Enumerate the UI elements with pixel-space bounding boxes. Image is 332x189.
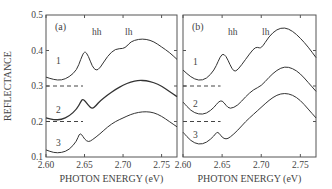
lh-annotation: lh xyxy=(125,27,133,37)
hh-annotation: hh xyxy=(228,27,238,37)
y-tick-label: 0.5 xyxy=(31,10,43,20)
series-line-1 xyxy=(183,28,316,80)
series-label: 3 xyxy=(56,138,61,148)
series-label: 2 xyxy=(193,99,198,109)
series-line-2 xyxy=(183,67,316,114)
y-tick-label: 0.3 xyxy=(31,81,43,91)
series-label: 3 xyxy=(193,130,198,140)
series-label: 2 xyxy=(56,105,61,115)
x-axis-label: PHOTON ENERGY (eV) xyxy=(60,173,164,185)
reflectance-figure: 2.602.652.702.750.10.20.30.40.5PHOTON EN… xyxy=(0,0,332,189)
hh-annotation: hh xyxy=(92,27,102,37)
series-label: 1 xyxy=(193,57,198,67)
x-tick-label: 2.70 xyxy=(115,160,132,170)
series-label: 1 xyxy=(56,56,61,66)
y-tick-label: 0.2 xyxy=(31,117,43,127)
x-tick-label: 2.75 xyxy=(292,160,309,170)
y-tick-label: 0.4 xyxy=(31,46,43,56)
x-tick-label: 2.65 xyxy=(76,160,93,170)
x-tick-label: 2.75 xyxy=(153,160,170,170)
panel-label: (b) xyxy=(192,21,204,33)
series-line-3 xyxy=(183,94,316,144)
y-axis-label: REFLECTANCE xyxy=(2,51,13,121)
x-tick-label: 2.65 xyxy=(214,160,231,170)
series-line-1 xyxy=(46,39,177,80)
y-tick-label: 0.1 xyxy=(31,152,43,162)
x-tick-label: 2.70 xyxy=(253,160,270,170)
lh-annotation: lh xyxy=(262,27,270,37)
plot-frame xyxy=(183,15,316,157)
plot-frame xyxy=(46,15,177,157)
x-tick-label: 2.60 xyxy=(175,160,192,170)
panel-label: (a) xyxy=(55,21,66,33)
x-axis-label: PHOTON ENERGY (eV) xyxy=(198,173,302,185)
panel-b: 2.602.652.702.75PHOTON ENERGY (eV)(b)hhl… xyxy=(175,15,316,185)
panel-a: 2.602.652.702.750.10.20.30.40.5PHOTON EN… xyxy=(31,10,177,185)
